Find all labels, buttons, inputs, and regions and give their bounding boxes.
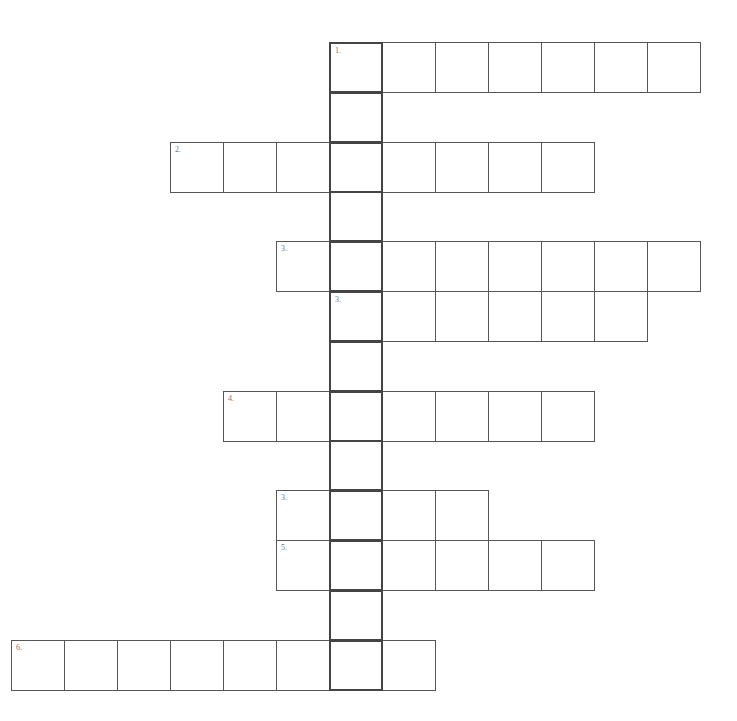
key-column-cell[interactable] [329,590,383,641]
crossword-cell[interactable] [435,291,489,342]
clue-number: 6. [16,643,22,652]
crossword-cell[interactable]: 5. [276,540,330,591]
crossword-cell[interactable]: 6. [11,640,65,691]
crossword-cell[interactable] [435,241,489,292]
crossword-cell[interactable] [435,490,489,541]
crossword-cell[interactable]: 4. [223,391,277,442]
crossword-cell[interactable] [223,640,277,691]
crossword-cell[interactable] [647,42,701,93]
crossword-cell[interactable] [541,540,595,591]
crossword-cell[interactable] [382,241,436,292]
clue-number: 3. [281,493,287,502]
crossword-cell[interactable] [541,42,595,93]
crossword-cell[interactable] [276,142,330,193]
key-column-cell[interactable]: 3. [329,291,383,342]
crossword-cell[interactable] [488,142,542,193]
key-column-cell[interactable] [329,440,383,491]
crossword-cell[interactable] [276,640,330,691]
crossword-cell[interactable] [382,540,436,591]
crossword-cell[interactable] [594,42,648,93]
key-column-cell[interactable] [329,490,383,541]
key-column-cell[interactable] [329,241,383,292]
clue-number: 2. [175,145,181,154]
key-column-cell[interactable] [329,142,383,193]
clue-number: 4. [228,394,234,403]
crossword-cell[interactable] [488,291,542,342]
crossword-cell[interactable] [64,640,118,691]
key-column-cell[interactable]: 1. [329,42,383,93]
crossword-cell[interactable]: 2. [170,142,224,193]
crossword-cell[interactable] [435,391,489,442]
crossword-cell[interactable] [117,640,171,691]
key-column-cell[interactable] [329,391,383,442]
crossword-cell[interactable] [382,42,436,93]
crossword-cell[interactable] [170,640,224,691]
crossword-cell[interactable]: 3. [276,490,330,541]
crossword-cell[interactable] [541,291,595,342]
crossword-cell[interactable] [223,142,277,193]
crossword-cell[interactable] [488,42,542,93]
crossword-cell[interactable] [594,241,648,292]
key-column-cell[interactable] [329,92,383,143]
crossword-cell[interactable] [382,391,436,442]
crossword-cell[interactable] [488,241,542,292]
crossword-cell[interactable] [541,142,595,193]
clue-number: 5. [281,543,287,552]
crossword-cell[interactable] [435,42,489,93]
key-column-cell[interactable] [329,341,383,392]
crossword-cell[interactable] [382,142,436,193]
crossword-cell[interactable] [435,142,489,193]
crossword-cell[interactable]: 3. [276,241,330,292]
key-column-cell[interactable] [329,191,383,242]
crossword-cell[interactable] [382,640,436,691]
crossword-cell[interactable] [382,490,436,541]
key-column-cell[interactable] [329,640,383,691]
crossword-cell[interactable] [541,391,595,442]
clue-number: 3. [335,295,341,304]
crossword-cell[interactable] [488,391,542,442]
crossword-cell[interactable] [541,241,595,292]
crossword-grid: 1.2.3.3.4.3.5.6. [0,0,737,721]
clue-number: 1. [335,46,341,55]
key-column-cell[interactable] [329,540,383,591]
clue-number: 3. [281,244,287,253]
crossword-cell[interactable] [488,540,542,591]
crossword-cell[interactable] [647,241,701,292]
crossword-cell[interactable] [435,540,489,591]
crossword-cell[interactable] [594,291,648,342]
crossword-cell[interactable] [276,391,330,442]
crossword-cell[interactable] [382,291,436,342]
